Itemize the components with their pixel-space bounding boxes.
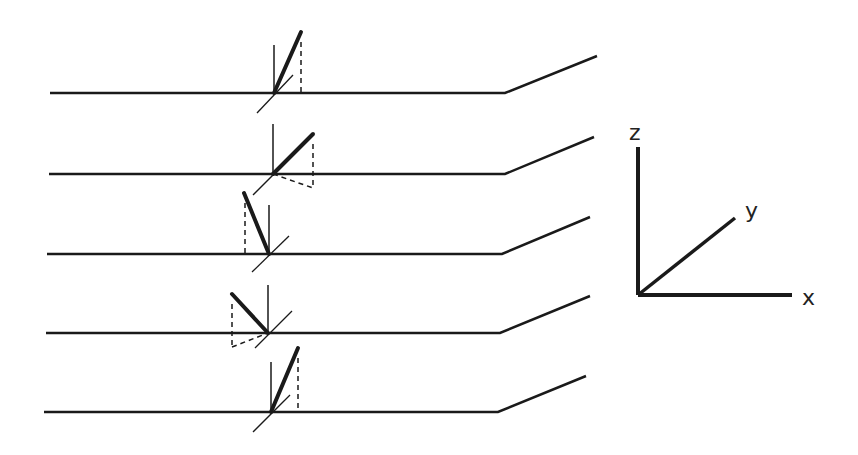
y-axis-line: [638, 218, 735, 295]
propagation-row: [50, 32, 597, 113]
y-axis-label: y: [745, 198, 758, 223]
polarization-vector: [273, 134, 313, 174]
polarization-vector: [244, 193, 269, 254]
coordinate-axes: z y x: [629, 120, 815, 310]
propagation-row: [49, 124, 594, 195]
polarization-vector: [271, 348, 298, 412]
propagation-line: [47, 217, 590, 254]
propagation-line: [50, 56, 597, 93]
propagation-row: [47, 193, 590, 272]
polarization-diagram: z y x: [0, 0, 858, 455]
propagation-line: [49, 137, 594, 174]
propagation-rows: [44, 32, 597, 432]
propagation-line: [44, 376, 586, 412]
propagation-line: [46, 296, 590, 333]
propagation-row: [46, 285, 590, 348]
local-y-axis: [255, 311, 292, 348]
z-axis-label: z: [629, 120, 641, 145]
polarization-vector: [274, 32, 301, 93]
polarization-vector: [232, 294, 268, 333]
depth-projection-dash: [273, 174, 313, 188]
x-axis-label: x: [802, 285, 815, 310]
propagation-row: [44, 348, 586, 432]
